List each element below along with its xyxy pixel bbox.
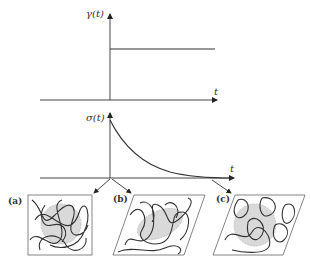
stress-plot — [40, 113, 234, 178]
arrow-to-b — [112, 179, 131, 193]
panel-a — [28, 195, 92, 255]
rheology-diagram: γ(t) t σ(t) t (a) (b) (c) — [0, 0, 310, 263]
panel-c — [213, 195, 305, 255]
strain-plot — [40, 14, 217, 100]
bottom-time-label: t — [230, 163, 234, 174]
arrow-to-c — [212, 180, 231, 193]
panel-c-label: (c) — [216, 194, 230, 204]
arrow-to-a — [94, 179, 110, 193]
panel-a-label: (a) — [8, 196, 22, 206]
panel-b-label: (b) — [113, 194, 128, 204]
relaxation-curve — [110, 120, 232, 178]
panel-b — [113, 195, 205, 255]
top-time-label: t — [214, 86, 218, 97]
diagram-canvas — [0, 0, 310, 263]
strain-axis-label: γ(t) — [86, 8, 104, 19]
stress-axis-label: σ(t) — [86, 112, 105, 123]
